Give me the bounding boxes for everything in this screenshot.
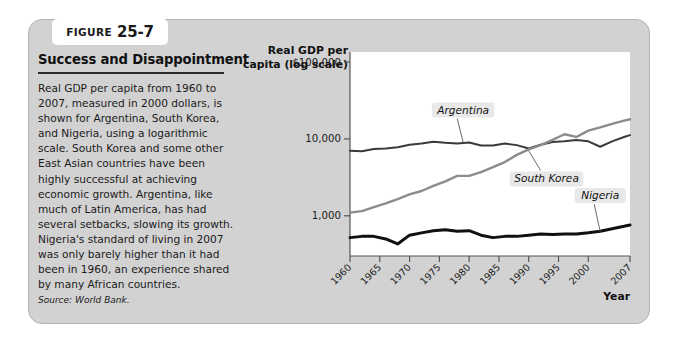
svg-text:Nigeria: Nigeria: [581, 189, 619, 201]
figure-text-column: Success and Disappointment Real GDP per …: [38, 52, 234, 305]
figure-root: FIGURE 25-7 Success and Disappointment R…: [0, 0, 679, 344]
title-divider: [38, 72, 224, 74]
chart-container: Real GDP per capita (log scale) $100,000…: [238, 44, 638, 306]
svg-text:1995: 1995: [537, 262, 562, 287]
figure-description: Real GDP per capita from 1960 to 2007, m…: [38, 81, 234, 292]
svg-text:2007: 2007: [608, 262, 633, 287]
figure-tag-word: FIGURE: [66, 26, 112, 38]
svg-text:Argentina: Argentina: [436, 104, 489, 116]
svg-text:1975: 1975: [418, 262, 443, 287]
svg-text:1990: 1990: [507, 262, 532, 287]
svg-text:1,000: 1,000: [312, 210, 341, 221]
svg-text:1965: 1965: [358, 262, 383, 287]
svg-text:$100,000: $100,000: [292, 57, 341, 68]
svg-text:1970: 1970: [388, 262, 413, 287]
svg-text:1960: 1960: [328, 262, 353, 287]
svg-text:1985: 1985: [477, 262, 502, 287]
figure-title: Success and Disappointment: [38, 52, 234, 67]
svg-text:1980: 1980: [448, 262, 473, 287]
line-chart-plot: $100,00010,0001,000196019651970197519801…: [238, 44, 638, 306]
figure-tag-number: 25-7: [117, 23, 154, 41]
figure-source: Source: World Bank.: [38, 295, 234, 305]
svg-text:10,000: 10,000: [305, 133, 341, 144]
svg-text:2000: 2000: [567, 262, 592, 287]
figure-number-tag: FIGURE 25-7: [52, 19, 168, 45]
svg-text:South Korea: South Korea: [514, 172, 579, 184]
svg-text:Year: Year: [602, 290, 630, 303]
